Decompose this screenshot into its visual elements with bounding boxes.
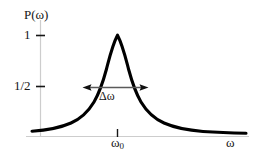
x-tick-label-omega0: ω0 <box>111 136 124 151</box>
y-tick-label-half: 1/2 <box>14 79 31 92</box>
x-axis-label: ω <box>226 136 235 149</box>
plot-canvas <box>0 0 253 163</box>
y-tick-label-one: 1 <box>24 28 31 41</box>
omega-symbol: ω <box>111 135 120 150</box>
fwhm-arrow-annotation <box>83 84 149 91</box>
fwhm-label: Δω <box>99 90 115 102</box>
omega-subscript-zero: 0 <box>120 141 125 151</box>
resonance-curve <box>32 35 246 133</box>
y-axis-label: P(ω) <box>24 8 48 21</box>
resonance-lineshape-figure: P(ω) 1 1/2 ω0 ω Δω <box>0 0 253 163</box>
